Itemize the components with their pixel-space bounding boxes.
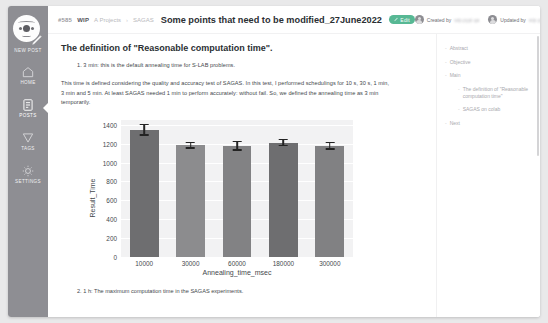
chart-y-tick: 400 xyxy=(106,215,117,222)
toc-dash: - xyxy=(458,86,460,93)
app-logo[interactable] xyxy=(13,15,43,45)
avatar[interactable] xyxy=(488,15,497,24)
chart-error-bar xyxy=(329,142,331,150)
chart-bar-slot xyxy=(214,120,260,257)
pencil-icon xyxy=(394,17,399,22)
edit-button[interactable]: Edit xyxy=(389,15,415,25)
app-window: NEW POST HOME POSTS TAGS xyxy=(8,6,540,317)
chart-error-bar xyxy=(190,142,192,150)
toc-item-label: Main xyxy=(450,72,461,79)
sidebar-item-label-tags: TAGS xyxy=(21,146,35,152)
chart-x-axis-label: Annealing_time_msec xyxy=(121,269,353,276)
logo-mouth xyxy=(22,34,31,37)
chart-y-tick: 800 xyxy=(106,178,117,185)
toc-dash: - xyxy=(445,72,447,79)
chart-y-tick: 1000 xyxy=(103,159,117,166)
toc-item[interactable]: -Objective xyxy=(445,59,534,66)
toc-item-label: Next xyxy=(450,120,460,127)
breadcrumb-separator: › xyxy=(126,17,128,23)
chart-error-bar xyxy=(143,124,145,136)
updated-by-meta: Updated by wip.pypi.qa xyxy=(488,15,540,24)
sidebar-item-label-new-post: NEW POST xyxy=(14,48,41,54)
avatar-head xyxy=(418,17,421,20)
chart-error-bar xyxy=(236,141,238,151)
chart-x-tick: 10000 xyxy=(135,260,153,267)
sidebar-item-home[interactable]: HOME xyxy=(8,58,48,91)
chart-y-tick: 200 xyxy=(106,234,117,241)
bar-chart-figure: Result_Time 0200400600800100012001400 10… xyxy=(75,116,363,281)
sidebar-item-label-home: HOME xyxy=(20,80,35,86)
toc-item[interactable]: -Main xyxy=(445,72,534,79)
toc-dash: - xyxy=(458,106,460,113)
avatar-body xyxy=(490,20,496,23)
document-list-item-1: 1. 3 min: this is the default annealing … xyxy=(77,62,422,68)
post-id: #585 xyxy=(58,17,72,23)
avatar-head xyxy=(491,17,494,20)
chart-bar xyxy=(315,146,344,257)
table-of-contents: -Abstract-Objective-Main-The definition … xyxy=(436,34,540,317)
app-root: NEW POST HOME POSTS TAGS xyxy=(0,0,548,323)
updated-by-user: wip.pypi.qa xyxy=(529,17,540,23)
chart-y-tick: 0 xyxy=(113,253,117,260)
toc-item[interactable]: -The definition of "Reasonable computati… xyxy=(458,86,534,100)
chart-x-tick: 300000 xyxy=(319,260,340,267)
breadcrumb: #585 WIP A Projects › SAGAS xyxy=(58,17,154,23)
created-by-label: Created by xyxy=(427,17,451,23)
logo-brow xyxy=(18,21,35,25)
top-bar: #585 WIP A Projects › SAGAS Some points … xyxy=(48,6,540,34)
chart-y-tick: 600 xyxy=(106,197,117,204)
chart-bar-slot xyxy=(307,120,353,257)
page-title: Some points that need to be modified_27J… xyxy=(161,15,382,25)
logo-eye-right xyxy=(31,27,34,30)
logo-eye-left xyxy=(19,27,22,30)
toc-dash: - xyxy=(445,45,447,52)
document-paragraph: This time is defined considering the qua… xyxy=(61,79,391,108)
home-icon xyxy=(21,65,35,79)
breadcrumb-project[interactable]: A Projects xyxy=(94,17,121,23)
document-list-item-2: 2. 1 h: The maximum computation time in … xyxy=(77,288,422,294)
sidebar-item-tags[interactable]: TAGS xyxy=(8,124,48,157)
left-sidebar: NEW POST HOME POSTS TAGS xyxy=(8,6,48,317)
posts-icon xyxy=(21,98,35,112)
chart-y-tick: 1200 xyxy=(103,140,117,147)
chart-bar xyxy=(223,146,252,257)
chart-y-tick: 1400 xyxy=(103,122,117,129)
created-by-meta: Created by wip.pypi.qa xyxy=(415,15,479,24)
pencil-icon xyxy=(31,33,44,46)
chart-y-axis-label: Result_Time xyxy=(89,178,96,217)
content-column: #585 WIP A Projects › SAGAS Some points … xyxy=(48,6,540,317)
toc-item-label: The definition of "Reasonable computatio… xyxy=(463,86,534,100)
chart-error-bar xyxy=(283,139,285,147)
toc-item[interactable]: -Abstract xyxy=(445,45,534,52)
sidebar-item-label-settings: SETTINGS xyxy=(15,179,41,185)
body-split: The definition of "Reasonable computatio… xyxy=(48,34,540,317)
updated-by-label: Updated by xyxy=(500,17,526,23)
toc-dash: - xyxy=(445,120,447,127)
toc-item[interactable]: -Next xyxy=(445,120,534,127)
document-area: The definition of "Reasonable computatio… xyxy=(48,34,436,317)
avatar[interactable] xyxy=(415,15,424,24)
breadcrumb-item[interactable]: SAGAS xyxy=(133,17,154,23)
sidebar-item-posts[interactable]: POSTS xyxy=(8,91,48,124)
toc-item-label: Abstract xyxy=(450,45,468,52)
toc-item-label: SAGAS on colab xyxy=(463,106,501,113)
chart-bar-slot xyxy=(121,120,167,257)
chart-bar-slot xyxy=(167,120,213,257)
avatar-body xyxy=(416,20,422,23)
document-heading: The definition of "Reasonable computatio… xyxy=(61,43,422,53)
chart-bar xyxy=(130,130,159,257)
sidebar-item-settings[interactable]: SETTINGS xyxy=(8,157,48,190)
toc-item[interactable]: -SAGAS on colab xyxy=(458,106,534,113)
top-bar-meta: Created by wip.pypi.qa Updated by wip.py… xyxy=(415,15,540,24)
toc-item-label: Objective xyxy=(450,59,471,66)
vertical-scrollbar[interactable] xyxy=(537,36,540,156)
chart-bar xyxy=(176,145,205,256)
chart-bars xyxy=(121,120,353,257)
chart-x-tick: 30000 xyxy=(182,260,200,267)
status-badge: WIP xyxy=(77,17,89,23)
chart-bar-slot xyxy=(260,120,306,257)
sidebar-item-new-post[interactable]: NEW POST xyxy=(13,15,43,54)
logo-nose xyxy=(23,25,30,32)
tags-icon xyxy=(21,131,35,145)
sidebar-item-label-posts: POSTS xyxy=(19,113,36,119)
